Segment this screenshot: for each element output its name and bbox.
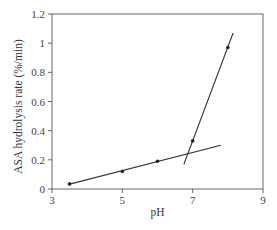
data-point (121, 170, 125, 174)
data-point (156, 159, 160, 163)
x-axis-label: pH (150, 206, 164, 219)
data-point (191, 139, 195, 143)
y-tick-label: 0 (40, 183, 46, 195)
x-tick-label: 5 (120, 194, 126, 206)
y-tick-label: 1.2 (31, 8, 45, 20)
hydrolysis-rate-chart: 00.20.40.60.811.2 3579 pH ASA hydrolysis… (0, 0, 277, 230)
y-tick-label: 0.6 (31, 96, 45, 108)
y-tick-label: 0.8 (31, 66, 45, 78)
fit-lines (68, 33, 233, 185)
x-tick-label: 9 (260, 194, 266, 206)
y-axis-ticks: 00.20.40.60.811.2 (31, 8, 52, 195)
x-tick-label: 7 (190, 194, 196, 206)
x-axis-ticks: 3579 (49, 189, 266, 206)
y-tick-label: 1 (40, 37, 46, 49)
data-points (68, 46, 230, 186)
y-axis-label: ASA hydrolysis rate (%/min) (12, 39, 25, 174)
data-point (226, 46, 230, 50)
y-tick-label: 0.2 (31, 154, 45, 166)
fit-line (68, 145, 221, 184)
fit-line (184, 33, 233, 164)
y-tick-label: 0.4 (31, 125, 45, 137)
data-point (68, 182, 72, 186)
x-tick-label: 3 (49, 194, 55, 206)
